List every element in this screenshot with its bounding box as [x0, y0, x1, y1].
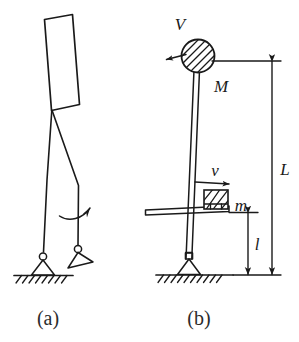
label-M: M [213, 77, 229, 96]
mechanics-figure: (a) [0, 0, 299, 342]
hatched-ground [14, 276, 73, 284]
rotation-arrow [60, 208, 91, 219]
pendulum-rod [186, 70, 200, 259]
front-leg [44, 111, 52, 253]
ground-pivot-joint [32, 253, 55, 275]
panel-b: V M [146, 15, 290, 330]
figure-container: (a) [0, 0, 299, 342]
caption-panel-a: (a) [37, 307, 59, 330]
label-l: l [255, 235, 260, 254]
label-V: V [175, 15, 188, 34]
caption-panel-b: (b) [187, 307, 210, 330]
panel-a: (a) [14, 15, 93, 331]
rear-leg [52, 111, 78, 246]
torso-rectangle [45, 15, 80, 111]
top-mass-M [176, 38, 221, 78]
raised-foot-joint [68, 245, 93, 268]
velocity-arrow-v [195, 182, 229, 184]
label-L: L [279, 160, 289, 179]
label-v: v [211, 161, 219, 180]
ground-pivot-joint [178, 253, 201, 275]
hatched-ground [156, 275, 233, 283]
